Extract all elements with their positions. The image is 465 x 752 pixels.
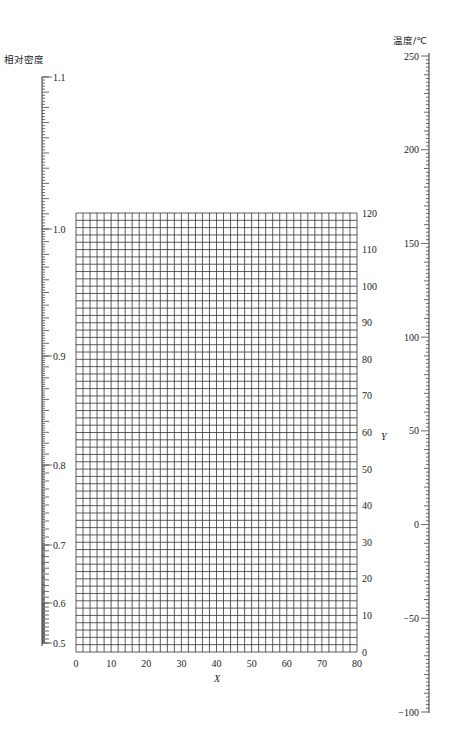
- density-tick-label: 0.5: [53, 638, 66, 649]
- y-tick-label: 90: [362, 317, 372, 328]
- x-tick-label: 10: [106, 658, 116, 669]
- x-tick-label: 20: [141, 658, 151, 669]
- x-tick-label: 60: [282, 658, 292, 669]
- y-tick-label: 10: [362, 610, 372, 621]
- grid-lines: [76, 213, 357, 652]
- x-tick-labels: 01020304050607080: [74, 658, 363, 669]
- nomogram-chart: 相对密度 0.50.60.70.80.91.01.1 0102030405060…: [0, 0, 465, 752]
- density-tick-label: 0.9: [53, 351, 66, 362]
- y-tick-label: 30: [362, 537, 372, 548]
- temperature-tick-label: 250: [404, 51, 419, 62]
- density-tick-label: 1.0: [53, 224, 66, 235]
- temperature-tick-label: 50: [409, 425, 419, 436]
- x-tick-label: 70: [317, 658, 327, 669]
- x-tick-label: 0: [74, 658, 79, 669]
- temperature-scale-title: 温度/℃: [393, 35, 427, 46]
- x-tick-label: 30: [176, 658, 186, 669]
- y-tick-label: 0: [362, 647, 367, 658]
- y-tick-label: 40: [362, 500, 372, 511]
- y-tick-label: 70: [362, 390, 372, 401]
- y-tick-label: 50: [362, 464, 372, 475]
- x-tick-label: 40: [212, 658, 222, 669]
- temperature-tick-label: −50: [403, 613, 419, 624]
- xy-grid: 01020304050607080 0102030405060708090100…: [74, 208, 389, 685]
- x-axis-label: X: [213, 673, 221, 684]
- x-tick-label: 50: [247, 658, 257, 669]
- y-tick-label: 60: [362, 427, 372, 438]
- y-tick-label: 20: [362, 573, 372, 584]
- density-tick-label: 0.8: [53, 460, 66, 471]
- temperature-tick-label: 0: [414, 519, 419, 530]
- y-tick-label: 100: [362, 281, 377, 292]
- density-tick-label: 1.1: [53, 72, 66, 83]
- temperature-scale: 温度/℃ 250200150100500−50−100: [393, 35, 429, 718]
- y-tick-labels: 0102030405060708090100110120: [362, 208, 377, 658]
- y-axis-label: Y: [381, 431, 388, 442]
- density-ticks: 0.50.60.70.80.91.01.1: [42, 72, 66, 649]
- y-tick-label: 80: [362, 354, 372, 365]
- x-tick-label: 80: [352, 658, 362, 669]
- density-scale: 相对密度 0.50.60.70.80.91.01.1: [4, 54, 66, 649]
- temperature-tick-label: −100: [398, 707, 419, 718]
- y-tick-label: 110: [362, 244, 377, 255]
- density-tick-label: 0.7: [53, 540, 66, 551]
- temperature-tick-label: 200: [404, 144, 419, 155]
- temperature-ticks: 250200150100500−50−100: [398, 51, 429, 718]
- density-scale-title: 相对密度: [4, 54, 44, 65]
- temperature-tick-label: 100: [404, 332, 419, 343]
- density-tick-label: 0.6: [53, 598, 66, 609]
- temperature-tick-label: 150: [404, 238, 419, 249]
- y-tick-label: 120: [362, 208, 377, 219]
